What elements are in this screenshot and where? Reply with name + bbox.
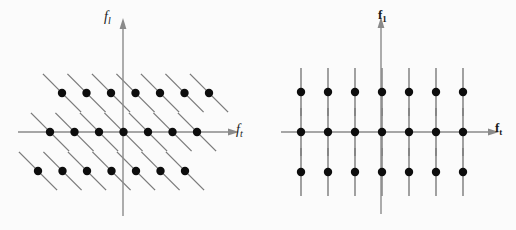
- lattice-dot: [70, 128, 78, 136]
- lattice-dot: [82, 89, 90, 97]
- axis-label-left-horizontal: ft: [236, 121, 243, 139]
- lattice-dot: [107, 167, 115, 175]
- lattice-dot: [83, 167, 91, 175]
- lattice-dot: [459, 88, 467, 96]
- lattice-dot: [324, 168, 332, 176]
- lattice-dot: [351, 128, 359, 136]
- lattice-dot: [58, 167, 66, 175]
- lattice-dot: [297, 88, 305, 96]
- lattice-dot: [459, 168, 467, 176]
- lattice-dot: [193, 128, 201, 136]
- lattice-dot: [297, 128, 305, 136]
- lattice-dot: [58, 89, 66, 97]
- lattice-dot: [378, 168, 386, 176]
- axis-vertical-arrowhead: [120, 18, 127, 29]
- rectangular-lattice-svg: [258, 0, 516, 230]
- lattice-dot: [181, 167, 189, 175]
- lattice-dot: [95, 128, 103, 136]
- lattice-dot: [405, 128, 413, 136]
- lattice-dot: [324, 128, 332, 136]
- axis-label-subscript: t: [240, 128, 243, 139]
- lattice-dot: [156, 89, 164, 97]
- lattice-dot: [156, 167, 164, 175]
- lattice-dot: [107, 89, 115, 97]
- lattice-dot: [432, 168, 440, 176]
- rectangular-lattice-panel: [258, 0, 516, 230]
- axes-group: [281, 17, 499, 214]
- lattice-dot: [405, 168, 413, 176]
- lattice-dot: [46, 128, 54, 136]
- axis-label-subscript: t: [499, 127, 502, 137]
- lattice-dot: [432, 88, 440, 96]
- axis-label-left-vertical: fl: [104, 8, 111, 26]
- lattice-dot: [205, 89, 213, 97]
- lattice-dot: [34, 167, 42, 175]
- figure-root: fl ft f1 ft: [0, 0, 516, 230]
- lattice-dot: [351, 168, 359, 176]
- axes-group: [18, 18, 239, 216]
- lattice-dot: [324, 88, 332, 96]
- axis-label-subscript: 1: [382, 14, 387, 24]
- axis-label-right-vertical: f1: [378, 6, 387, 24]
- lattice-dot: [168, 128, 176, 136]
- lattice-dot: [144, 128, 152, 136]
- lattice-dot: [378, 88, 386, 96]
- lattice-dot: [297, 168, 305, 176]
- axis-label-subscript: l: [108, 15, 111, 26]
- lattice-dot: [132, 167, 140, 175]
- lattice-dot: [378, 128, 386, 136]
- axis-label-right-horizontal: ft: [495, 119, 502, 137]
- skewed-lattice-panel: [0, 0, 258, 230]
- skewed-lattice-svg: [0, 0, 258, 230]
- lattice-dot: [119, 128, 127, 136]
- lattice-dot: [432, 128, 440, 136]
- lattice-dot: [180, 89, 188, 97]
- lattice-dot: [459, 128, 467, 136]
- lattice-dot: [351, 88, 359, 96]
- lattice-dot: [405, 88, 413, 96]
- lattice-dot: [131, 89, 139, 97]
